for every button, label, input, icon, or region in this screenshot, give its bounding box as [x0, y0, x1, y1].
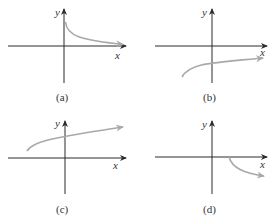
panel-label-a: (a): [56, 91, 69, 104]
curve-a: [66, 22, 124, 45]
x-axis-label: x: [259, 158, 265, 170]
panel-label-b: (b): [203, 91, 216, 104]
x-axis-label: x: [259, 46, 265, 58]
panel-c: y x (c): [8, 117, 126, 216]
y-axis-label: y: [54, 117, 60, 129]
x-axis-label: x: [114, 49, 120, 61]
y-axis-label: y: [201, 6, 207, 18]
panel-d: y x (d): [155, 118, 267, 216]
panel-label-d: (d): [203, 203, 216, 216]
curve-d: [229, 157, 264, 176]
curve-b: [182, 58, 263, 77]
graphs-figure: y x (a) y x (b) y x (c) y x (d): [0, 0, 278, 223]
curve-c: [27, 127, 123, 151]
panel-b: y x (b): [155, 6, 267, 104]
x-axis-label: x: [112, 159, 118, 171]
y-axis-label: y: [54, 6, 60, 18]
panel-a: y x (a): [8, 6, 126, 104]
y-axis-label: y: [201, 118, 207, 130]
panel-label-c: (c): [56, 203, 69, 216]
